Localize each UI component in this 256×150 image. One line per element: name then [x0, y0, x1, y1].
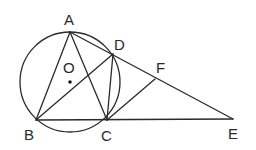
label-a: A: [64, 11, 74, 28]
label-b: B: [24, 126, 34, 143]
segment-cf: [107, 79, 155, 120]
segment-ae: [70, 32, 233, 119]
label-d: D: [114, 36, 125, 53]
segments: [36, 32, 233, 120]
segment-ab: [36, 32, 70, 120]
segment-be: [36, 119, 233, 120]
center-point-o: [68, 80, 72, 84]
label-e: E: [228, 125, 238, 142]
point-labels: A B C D F E O: [24, 11, 238, 144]
label-c: C: [101, 127, 112, 144]
label-f: F: [156, 59, 165, 76]
label-o: O: [63, 59, 75, 76]
segment-ac: [70, 32, 107, 120]
geometry-diagram: A B C D F E O: [0, 0, 256, 150]
